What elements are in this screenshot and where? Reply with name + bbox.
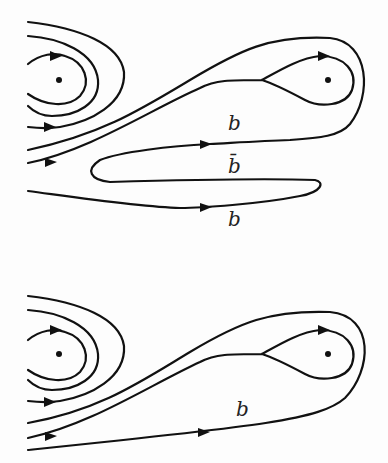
arrow-icon (44, 397, 56, 407)
arrow-icon (45, 158, 57, 167)
arrow-icon (200, 140, 212, 149)
arrow-icon (318, 51, 330, 61)
fixed-point-left (56, 77, 62, 83)
separatrix-outer (28, 38, 364, 150)
arrow-icon (45, 432, 57, 441)
arrow-icon (200, 203, 212, 212)
arrow-icon (44, 122, 56, 132)
label-b-lower: b (228, 207, 241, 231)
top-panel: b b̄ b (28, 22, 364, 231)
label-b-bottom: b (236, 397, 249, 421)
left-orbit-middle (28, 310, 98, 390)
label-b-bar: b̄ (228, 153, 241, 178)
phase-diagram: b b̄ b b (0, 0, 388, 463)
fixed-point-right (325, 77, 331, 83)
separatrix-outer (28, 312, 365, 450)
bottom-panel (28, 296, 365, 450)
fixed-point-left (56, 351, 62, 357)
fixed-point-right (325, 351, 331, 357)
arrow-icon (50, 51, 62, 61)
separatrix-inner (28, 56, 353, 163)
separatrix-inner (28, 330, 353, 438)
arrow-icon (50, 325, 62, 335)
arrow-icon (198, 428, 210, 437)
label-b-upper: b (228, 111, 241, 135)
arrow-icon (318, 325, 330, 335)
path-b-switchback (28, 144, 320, 208)
